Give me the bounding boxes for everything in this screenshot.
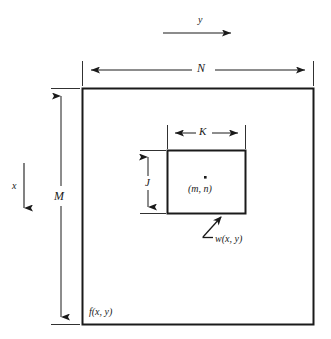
center-point-label: (m, n) bbox=[188, 183, 212, 194]
inner-subimage-rect bbox=[168, 151, 246, 214]
dimension-m-label: M bbox=[54, 189, 64, 204]
image-label: f(x, y) bbox=[89, 306, 112, 317]
dimension-j-label: J bbox=[145, 176, 150, 188]
outer-image-rect bbox=[83, 89, 314, 325]
subimage-label: w(x, y) bbox=[215, 233, 242, 244]
dimension-k-label: K bbox=[199, 125, 206, 137]
dimension-m bbox=[51, 89, 80, 325]
dimension-j bbox=[140, 151, 166, 214]
dimension-n-label: N bbox=[197, 61, 205, 76]
figure-container: y x N M K J (m, n) w(x, y) f(x, y) bbox=[0, 0, 331, 339]
center-point-dot bbox=[204, 176, 207, 179]
figure-svg bbox=[0, 0, 331, 339]
axis-y-label: y bbox=[198, 14, 202, 25]
dimension-k bbox=[168, 125, 246, 149]
axis-x-label: x bbox=[12, 180, 16, 191]
